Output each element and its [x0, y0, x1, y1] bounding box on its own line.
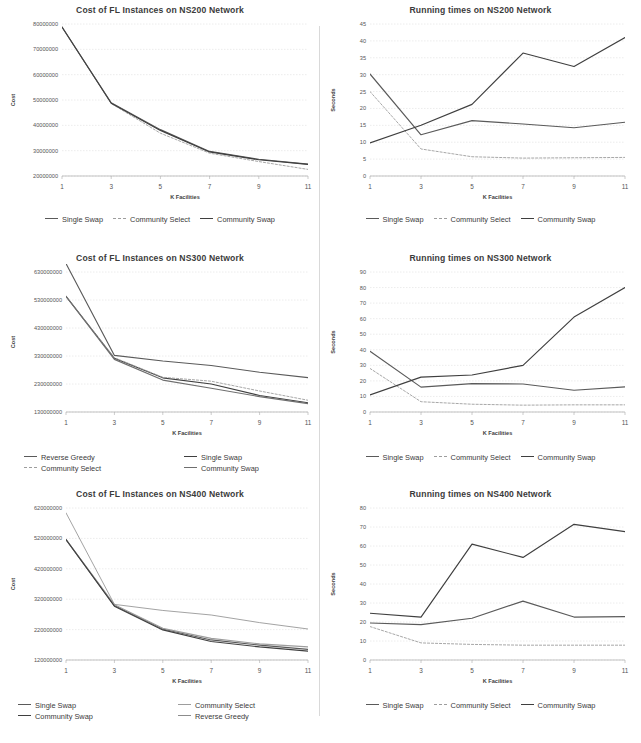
- series-line-single-swap: [66, 296, 308, 402]
- legend-item[interactable]: Community Select: [434, 700, 511, 711]
- y-tick-label: 0: [363, 657, 366, 663]
- y-tick-label: 70: [360, 524, 366, 530]
- x-tick-label: 1: [60, 183, 64, 190]
- y-tick-label: 60: [360, 543, 366, 549]
- y-tick-label: 230000000: [34, 381, 62, 387]
- legend-item[interactable]: Reverse Greedy: [0, 452, 160, 463]
- x-tick-label: 11: [305, 183, 312, 190]
- legend-item[interactable]: Community Select: [434, 214, 511, 225]
- legend-item[interactable]: Single Swap: [0, 700, 160, 711]
- legend-swatch-icon: [434, 456, 447, 457]
- y-tick-label: 30: [360, 600, 366, 606]
- y-axis-title: Cost: [10, 336, 16, 349]
- series-line-community-select: [62, 27, 308, 169]
- x-tick-label: 11: [305, 667, 312, 674]
- x-tick-label: 3: [419, 667, 423, 674]
- x-axis-title: K Facilities: [483, 430, 513, 436]
- legend-item[interactable]: Community Select: [160, 700, 320, 711]
- series-line-community-swap: [66, 296, 308, 403]
- legend-label: Single Swap: [383, 214, 424, 225]
- legend-swatch-icon: [113, 218, 126, 219]
- series-line-community-select: [66, 540, 308, 647]
- panel-time-ns300: Running times on NS300 Network 010203040…: [320, 248, 641, 484]
- chart-canvas-cost-ns200: 2000000030000000400000005000000060000000…: [0, 16, 320, 214]
- x-tick-label: 5: [470, 183, 474, 190]
- x-tick-label: 7: [521, 419, 525, 426]
- panel-time-ns200: Running times on NS200 Network 051015202…: [320, 0, 641, 248]
- legend-item[interactable]: Single Swap: [366, 214, 424, 225]
- legend-label: Community Swap: [201, 463, 259, 474]
- legend-item[interactable]: Community Swap: [521, 700, 596, 711]
- legend-item[interactable]: Community Swap: [521, 214, 596, 225]
- legend-item[interactable]: Reverse Greedy: [160, 711, 320, 722]
- legend-label: Community Select: [195, 700, 255, 711]
- legend-item[interactable]: Community Swap: [160, 463, 320, 474]
- legend-label: Community Select: [451, 214, 511, 225]
- y-axis-title: Cost: [10, 578, 16, 591]
- y-tick-label: 40000000: [33, 122, 58, 128]
- x-tick-label: 3: [113, 667, 117, 674]
- legend-label: Reverse Greedy: [195, 711, 249, 722]
- legend-time-ns400: Single SwapCommunity SelectCommunity Swa…: [320, 700, 641, 711]
- y-tick-label: 520000000: [34, 535, 62, 541]
- legend-item[interactable]: Community Select: [434, 452, 511, 463]
- panel-time-ns400: Running times on NS400 Network 010203040…: [320, 484, 641, 743]
- legend-item[interactable]: Single Swap: [366, 700, 424, 711]
- x-tick-label: 1: [64, 667, 68, 674]
- x-axis-title: K Facilities: [483, 678, 513, 684]
- panel-cost-ns300: Cost of FL Instances on NS300 Network 13…: [0, 248, 320, 484]
- legend-item[interactable]: Community Select: [0, 463, 160, 474]
- legend-item[interactable]: Single Swap: [160, 452, 320, 463]
- y-tick-label: 70000000: [33, 46, 58, 52]
- x-tick-label: 1: [368, 667, 372, 674]
- x-tick-label: 1: [368, 419, 372, 426]
- legend-swatch-icon: [434, 704, 447, 705]
- series-line-reverse-greedy: [66, 264, 308, 378]
- y-tick-label: 40: [360, 347, 366, 353]
- y-tick-label: 320000000: [34, 596, 62, 602]
- y-tick-label: 420000000: [34, 566, 62, 572]
- series-line-community-swap: [62, 27, 308, 164]
- plot-time-ns300: 01020304050607080901357911K FacilitiesSe…: [320, 264, 641, 452]
- x-tick-label: 7: [209, 419, 213, 426]
- legend-swatch-icon: [18, 715, 31, 716]
- chart-title: Running times on NS200 Network: [320, 0, 641, 16]
- y-tick-label: 220000000: [34, 627, 62, 633]
- series-line-community-select: [370, 92, 625, 159]
- legend-time-ns300: Single SwapCommunity SelectCommunity Swa…: [320, 452, 641, 463]
- x-tick-label: 3: [419, 419, 423, 426]
- legend-cost-ns400: Single SwapCommunity SelectCommunity Swa…: [0, 700, 320, 722]
- legend-item[interactable]: Community Select: [113, 214, 190, 225]
- legend-label: Community Swap: [538, 452, 596, 463]
- legend-item[interactable]: Community Swap: [0, 711, 160, 722]
- chart-title: Running times on NS300 Network: [320, 248, 641, 264]
- panel-cost-ns200: Cost of FL Instances on NS200 Network 20…: [0, 0, 320, 248]
- chart-title: Cost of FL Instances on NS400 Network: [0, 484, 320, 500]
- y-tick-label: 10: [360, 139, 366, 145]
- x-tick-label: 3: [113, 419, 117, 426]
- x-tick-label: 7: [209, 667, 213, 674]
- legend-item[interactable]: Community Swap: [200, 214, 275, 225]
- y-tick-label: 130000000: [34, 409, 62, 415]
- legend-item[interactable]: Community Swap: [521, 452, 596, 463]
- x-tick-label: 1: [64, 419, 68, 426]
- y-tick-label: 120000000: [34, 657, 62, 663]
- legend-swatch-icon: [184, 467, 197, 468]
- series-line-single-swap: [370, 601, 625, 625]
- y-tick-label: 20: [360, 378, 366, 384]
- legend-swatch-icon: [24, 467, 37, 468]
- chart-canvas-time-ns300: 01020304050607080901357911K FacilitiesSe…: [320, 264, 641, 452]
- figure-grid: Cost of FL Instances on NS200 Network 20…: [0, 0, 641, 743]
- x-tick-label: 9: [258, 667, 262, 674]
- x-tick-label: 11: [622, 667, 629, 674]
- x-tick-label: 9: [572, 419, 576, 426]
- series-line-single-swap: [62, 27, 308, 164]
- y-tick-label: 80000000: [33, 21, 58, 27]
- legend-item[interactable]: Single Swap: [45, 214, 103, 225]
- legend-swatch-icon: [521, 218, 534, 219]
- y-tick-label: 20000000: [33, 173, 58, 179]
- legend-item[interactable]: Single Swap: [366, 452, 424, 463]
- y-tick-label: 40: [360, 581, 366, 587]
- y-tick-label: 50: [360, 562, 366, 568]
- panel-cost-ns400: Cost of FL Instances on NS400 Network 12…: [0, 484, 320, 743]
